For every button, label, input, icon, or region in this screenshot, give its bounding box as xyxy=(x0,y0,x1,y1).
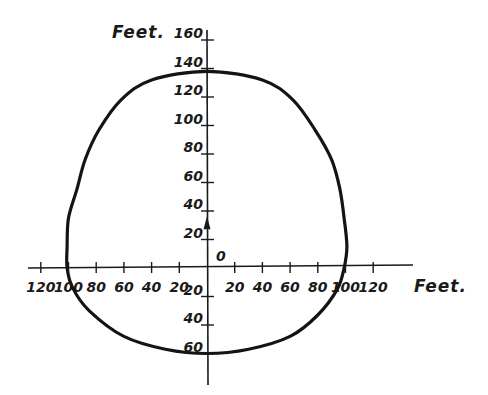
y-axis-label: Feet. xyxy=(112,22,165,42)
y-tick-label: 80 xyxy=(184,139,204,155)
x-tick-label: 40 xyxy=(252,279,273,295)
y-tick-label: 60 xyxy=(184,168,204,184)
x-axis-label: Feet. xyxy=(414,276,467,296)
x-tick-label: 20 xyxy=(225,279,245,295)
y-axis xyxy=(207,30,208,385)
y-tick-label: 140 xyxy=(174,54,203,70)
x-tick-label: 60 xyxy=(280,279,300,295)
origin-label: 0 xyxy=(216,248,226,264)
x-tick-label: 80 xyxy=(86,279,106,295)
x-tick-label: 120 xyxy=(359,279,388,295)
x-tick-label: 120 xyxy=(26,279,55,295)
chart: 1201008060402020406080100120160140120100… xyxy=(0,0,488,395)
x-tick-label: 80 xyxy=(308,279,328,295)
arrow-up-icon xyxy=(204,216,211,229)
y-tick-label: 100 xyxy=(174,111,203,127)
x-tick-label: 60 xyxy=(114,279,134,295)
x-axis xyxy=(28,265,413,268)
y-tick-label: 160 xyxy=(174,25,203,41)
x-tick-label: 40 xyxy=(141,279,162,295)
y-tick-label: 120 xyxy=(174,82,203,98)
y-tick-label: 20 xyxy=(184,282,204,298)
y-tick-label: 40 xyxy=(183,196,204,212)
y-tick-label: 20 xyxy=(184,225,204,241)
axes xyxy=(28,30,413,385)
y-tick-label: 40 xyxy=(183,310,204,326)
